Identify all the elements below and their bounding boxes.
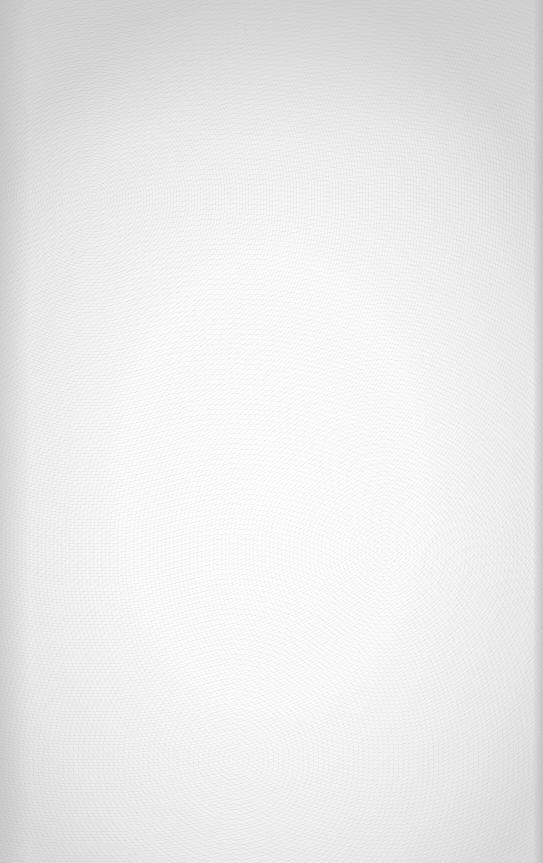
top-vignette-shade	[0, 0, 543, 140]
blank-paper-page	[0, 0, 543, 863]
right-page-edge	[534, 0, 543, 863]
left-vignette-shade	[0, 0, 30, 863]
